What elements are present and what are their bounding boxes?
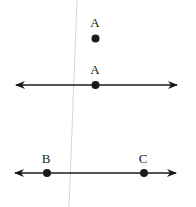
point-c-dot	[140, 169, 148, 177]
point-c-label: C	[139, 151, 148, 166]
point-b-dot	[43, 169, 51, 177]
point-a-label: A	[90, 15, 100, 30]
faint-guide-line	[69, 0, 77, 207]
point-b-label: B	[42, 151, 51, 166]
point-a-dot	[92, 35, 100, 43]
point-a-figure: A	[90, 15, 100, 43]
line-a-figure: A	[16, 62, 177, 89]
geometry-diagram: A A B C	[0, 0, 196, 207]
line-a-point-label: A	[90, 62, 100, 77]
line-a-point-dot	[92, 81, 100, 89]
line-bc-figure: B C	[15, 151, 176, 177]
